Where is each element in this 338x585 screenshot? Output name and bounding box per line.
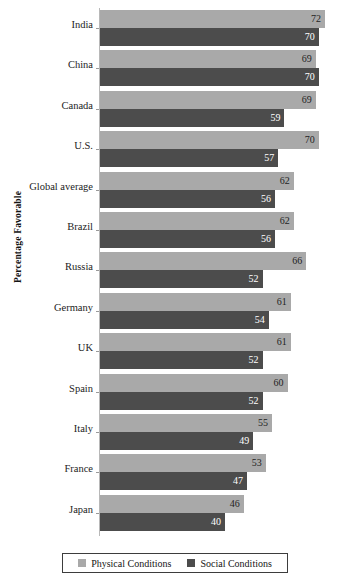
category-label: Russia <box>0 261 93 272</box>
bar-group: Russia6652 <box>0 252 338 290</box>
bar-value-label: 49 <box>239 436 249 446</box>
bar-social: 56 <box>100 190 275 208</box>
axis-tick <box>96 149 99 150</box>
bar-physical: 70 <box>100 131 319 149</box>
bar-value-label: 55 <box>258 418 268 428</box>
category-label: Japan <box>0 504 93 515</box>
bar-group: France5347 <box>0 454 338 492</box>
bar-social: 59 <box>100 109 284 127</box>
bar-value-label: 57 <box>264 153 274 163</box>
bar-group: U.S.7057 <box>0 131 338 169</box>
bar-physical: 72 <box>100 10 325 28</box>
axis-tick <box>96 230 99 231</box>
bar-value-label: 72 <box>311 14 321 24</box>
bar-physical: 62 <box>100 172 294 190</box>
bar-value-label: 70 <box>305 32 315 42</box>
bar-social: 52 <box>100 392 263 410</box>
bar-value-label: 61 <box>277 297 287 307</box>
axis-tick <box>96 311 99 312</box>
category-label: India <box>0 19 93 30</box>
bar-value-label: 46 <box>230 499 240 509</box>
bar-value-label: 52 <box>249 355 259 365</box>
bar-value-label: 66 <box>292 256 302 266</box>
category-label: Italy <box>0 423 93 434</box>
bar-group: China6970 <box>0 50 338 88</box>
axis-tick <box>96 109 99 110</box>
legend-item-social: Social Conditions <box>187 558 271 569</box>
bar-group: Italy5549 <box>0 414 338 452</box>
bar-physical: 53 <box>100 454 266 472</box>
bar-social: 56 <box>100 230 275 248</box>
bar-social: 47 <box>100 472 247 490</box>
axis-tick <box>96 351 99 352</box>
axis-tick <box>96 190 99 191</box>
legend-swatch-icon-physical <box>78 559 86 567</box>
bar-group: Brazil6256 <box>0 212 338 250</box>
bar-value-label: 56 <box>261 194 271 204</box>
bar-physical: 60 <box>100 374 288 392</box>
bar-physical: 69 <box>100 91 316 109</box>
axis-tick <box>96 513 99 514</box>
legend-label-social: Social Conditions <box>200 558 271 569</box>
category-label: U.S. <box>0 140 93 151</box>
bar-physical: 62 <box>100 212 294 230</box>
bar-group: India7270 <box>0 10 338 48</box>
bar-physical: 69 <box>100 50 316 68</box>
bar-value-label: 56 <box>261 234 271 244</box>
bar-group: Japan4640 <box>0 495 338 533</box>
plot-area: India7270China6970Canada6959U.S.7057Glob… <box>0 8 338 536</box>
bar-value-label: 60 <box>274 378 284 388</box>
bar-value-label: 59 <box>270 113 280 123</box>
bar-value-label: 70 <box>305 135 315 145</box>
chart-legend: Physical Conditions Social Conditions <box>62 553 288 573</box>
bar-value-label: 69 <box>302 95 312 105</box>
category-label: France <box>0 463 93 474</box>
category-label: Global average <box>0 181 93 192</box>
bar-value-label: 52 <box>249 396 259 406</box>
bar-value-label: 40 <box>211 517 221 527</box>
bar-social: 52 <box>100 351 263 369</box>
bar-chart: Percentage Favorable India7270China6970C… <box>0 0 338 585</box>
bar-physical: 55 <box>100 414 272 432</box>
bar-physical: 66 <box>100 252 306 270</box>
axis-tick <box>96 432 99 433</box>
bar-social: 49 <box>100 432 253 450</box>
bar-value-label: 70 <box>305 72 315 82</box>
bar-group: Spain6052 <box>0 374 338 412</box>
axis-tick <box>96 28 99 29</box>
bar-physical: 46 <box>100 495 244 513</box>
bar-social: 70 <box>100 28 319 46</box>
bar-social: 57 <box>100 149 278 167</box>
bar-social: 70 <box>100 68 319 86</box>
axis-tick <box>96 68 99 69</box>
legend-item-physical: Physical Conditions <box>78 558 171 569</box>
bar-physical: 61 <box>100 333 291 351</box>
bar-value-label: 62 <box>280 216 290 226</box>
bar-group: UK6152 <box>0 333 338 371</box>
bar-value-label: 61 <box>277 337 287 347</box>
category-label: UK <box>0 342 93 353</box>
bar-value-label: 52 <box>249 274 259 284</box>
bar-physical: 61 <box>100 293 291 311</box>
axis-tick <box>96 472 99 473</box>
bar-value-label: 62 <box>280 176 290 186</box>
axis-tick <box>96 270 99 271</box>
bar-social: 52 <box>100 270 263 288</box>
category-label: Canada <box>0 100 93 111</box>
bar-social: 54 <box>100 311 269 329</box>
legend-swatch-icon-social <box>187 559 195 567</box>
bar-social: 40 <box>100 513 225 531</box>
bar-value-label: 53 <box>252 458 262 468</box>
category-label: Brazil <box>0 221 93 232</box>
bar-group: Canada6959 <box>0 91 338 129</box>
category-label: Germany <box>0 302 93 313</box>
bar-value-label: 47 <box>233 476 243 486</box>
bar-group: Germany6154 <box>0 293 338 331</box>
category-label: China <box>0 59 93 70</box>
legend-label-physical: Physical Conditions <box>91 558 171 569</box>
axis-tick <box>96 392 99 393</box>
bar-value-label: 69 <box>302 54 312 64</box>
bar-value-label: 54 <box>255 315 265 325</box>
bar-group: Global average6256 <box>0 172 338 210</box>
category-label: Spain <box>0 383 93 394</box>
